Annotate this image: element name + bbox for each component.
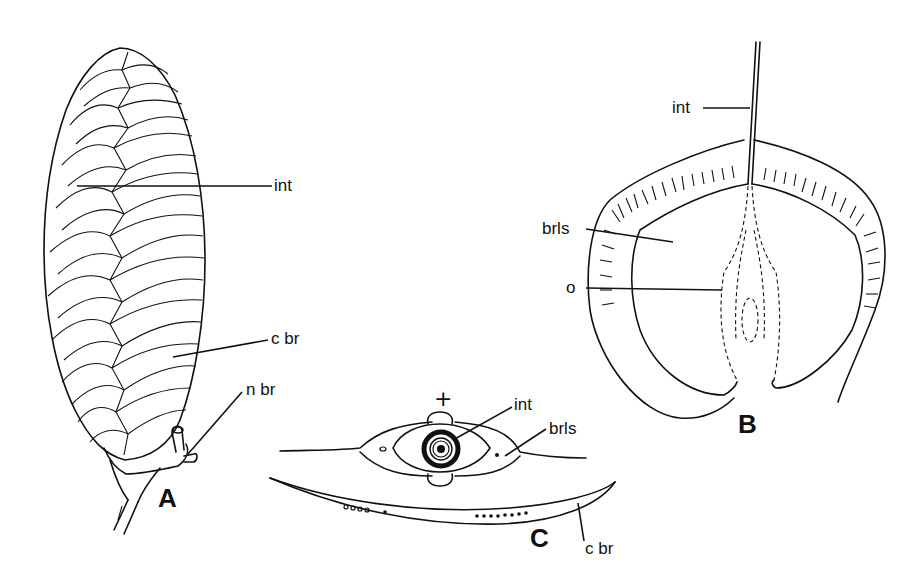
label-a-cone-bract: c br (271, 330, 299, 347)
panel-b-section (586, 42, 885, 418)
label-b-int: int (672, 99, 690, 116)
label-c-cone-bract: c br (585, 540, 613, 557)
figure-letter-a: A (158, 485, 177, 511)
panel-a-cone (44, 48, 272, 534)
label-b-ovule: o (566, 279, 575, 296)
label-b-bracteoles: brls (542, 220, 569, 237)
label-c-int: int (514, 396, 532, 413)
label-a-nodal-bract: n br (246, 381, 275, 398)
label-a-int: int (274, 177, 292, 194)
figure-letter-b: B (738, 411, 757, 437)
figure-letter-c: C (530, 525, 549, 551)
botanical-diagram (0, 0, 918, 588)
label-c-bracteoles: brls (549, 420, 576, 437)
label-c-plus: + (434, 388, 452, 410)
